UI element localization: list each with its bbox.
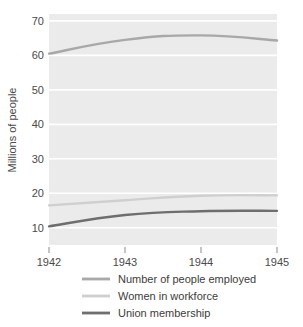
line-chart: 70605040302010 1942194319441945 Millions…: [0, 0, 303, 327]
y-tick-label-30: 30: [32, 153, 44, 165]
y-axis-title: Millions of people: [6, 88, 18, 173]
x-tick-label-1945: 1945: [265, 256, 289, 268]
x-tick-label-1942: 1942: [37, 256, 61, 268]
x-tick-label-1944: 1944: [189, 256, 213, 268]
y-tick-label-10: 10: [32, 222, 44, 234]
y-tick-label-40: 40: [32, 118, 44, 130]
chart-svg: 70605040302010 1942194319441945 Millions…: [0, 0, 303, 327]
y-tick-label-20: 20: [32, 187, 44, 199]
legend-label-0: Number of people employed: [118, 273, 256, 285]
y-tick-label-70: 70: [32, 15, 44, 27]
y-tick-label-60: 60: [32, 49, 44, 61]
x-tick-label-1943: 1943: [113, 256, 137, 268]
legend-label-1: Women in workforce: [118, 290, 218, 302]
legend-label-2: Union membership: [118, 307, 210, 319]
y-tick-label-50: 50: [32, 84, 44, 96]
